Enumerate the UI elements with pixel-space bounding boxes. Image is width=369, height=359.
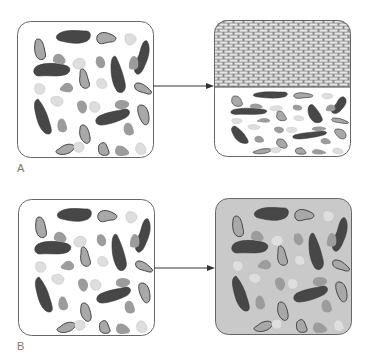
particle-container-a-before xyxy=(17,21,154,158)
panel-a-after xyxy=(214,20,351,157)
arrow-right-icon xyxy=(154,263,216,273)
particle-container-b-before xyxy=(18,199,155,336)
arrow-right-icon xyxy=(153,81,215,91)
panel-a-before xyxy=(17,21,154,158)
particle-container-b-after xyxy=(215,198,352,335)
arrow-b xyxy=(154,263,216,273)
label-a: A xyxy=(17,162,24,174)
particle-container-a-after xyxy=(214,20,351,157)
brick-wall xyxy=(214,20,351,87)
panel-b-before xyxy=(18,199,155,336)
label-b: B xyxy=(17,340,24,352)
panel-b-after xyxy=(215,198,352,335)
arrow-a xyxy=(153,81,215,91)
